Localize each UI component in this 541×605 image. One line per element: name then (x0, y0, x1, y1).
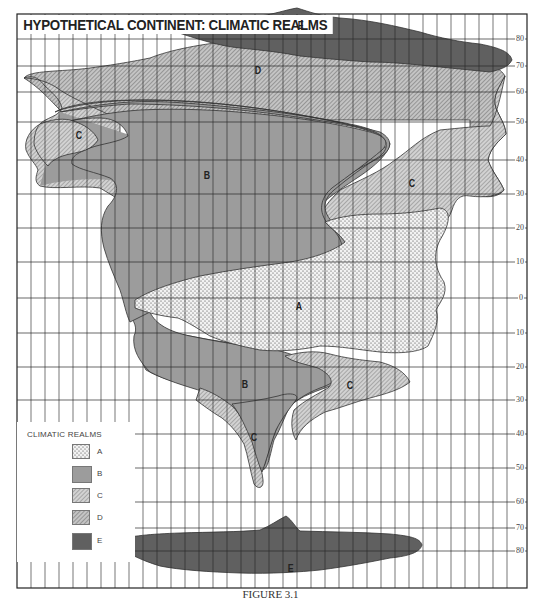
lat-label-50s: 50 (515, 463, 525, 472)
lat-label-70n: 70 (515, 61, 525, 70)
region-label-c-south: C (347, 379, 353, 391)
lat-label-10s: 10 (515, 328, 525, 337)
legend-item-b (72, 466, 92, 482)
region-label-e-south: E (288, 562, 294, 574)
legend-swatch-c (72, 488, 90, 503)
region-label-d: D (255, 64, 261, 76)
region-label-c-west: C (76, 129, 82, 141)
region-label-b-north: B (204, 169, 210, 181)
lat-label-30n: 30 (515, 189, 525, 198)
lat-label-50n: 50 (515, 117, 525, 126)
legend-label-d: D (97, 513, 103, 522)
lat-label-80s: 80 (515, 546, 525, 555)
region-label-c-east: C (409, 177, 415, 189)
legend-title: CLIMATIC REALMS (27, 430, 102, 439)
legend-swatch-d (72, 510, 90, 525)
legend-label-e: E (97, 536, 102, 545)
lat-label-30s: 30 (515, 395, 525, 404)
legend-swatch-a (72, 444, 90, 459)
lat-label-40s: 40 (515, 429, 525, 438)
legend-label-a: A (97, 447, 102, 456)
legend: CLIMATIC REALMS A B C D E (17, 422, 135, 562)
legend-item-d (72, 510, 92, 526)
figure-caption: FIGURE 3.1 (0, 588, 541, 600)
lat-label-10n: 10 (515, 257, 525, 266)
legend-swatch-e (72, 533, 92, 550)
lat-label-0: 0 (518, 293, 524, 302)
legend-label-b: B (97, 469, 102, 478)
legend-swatch-b (72, 466, 92, 483)
legend-item-c (72, 488, 92, 504)
lat-label-20s: 20 (515, 362, 525, 371)
region-label-a: A (296, 300, 302, 312)
lat-label-60s: 60 (515, 497, 525, 506)
region-label-c-tip: C (251, 431, 257, 443)
legend-item-e (72, 533, 92, 549)
region-label-e-north: E (298, 19, 304, 31)
region-label-b-south: B (242, 378, 248, 390)
lat-label-40n: 40 (515, 155, 525, 164)
lat-label-70s: 70 (515, 523, 525, 532)
lat-label-20n: 20 (515, 223, 525, 232)
lat-label-80n: 80 (515, 34, 525, 43)
lat-label-60n: 60 (515, 87, 525, 96)
legend-item-a (72, 444, 92, 460)
legend-label-c: C (97, 491, 103, 500)
map-title: HYPOTHETICAL CONTINENT: CLIMATIC REALMS (18, 15, 332, 34)
